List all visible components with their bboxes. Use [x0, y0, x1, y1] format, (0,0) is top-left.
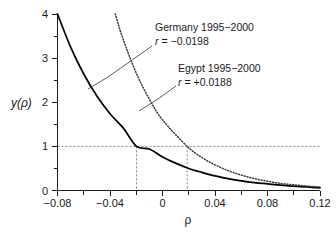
annotation-germany: Germany 1995−2000 r= −0.0198 — [155, 21, 254, 47]
x-tick-label: 0 — [159, 197, 165, 209]
y-axis-title: y(ρ) — [10, 96, 32, 110]
x-axis-minor-ticks — [84, 191, 294, 195]
x-tick-label: 0.08 — [257, 197, 278, 209]
y-axis-title-text: y(ρ) — [10, 96, 32, 110]
y-tick-label: 3 — [42, 52, 48, 64]
germany-r-symbol: r — [155, 35, 159, 47]
x-tick-label: 0.12 — [309, 197, 330, 209]
egypt-label-line1: Egypt 1995−2000 — [178, 62, 261, 74]
svg-text:r= −0.0198: r= −0.0198 — [155, 35, 209, 47]
y-tick-label: 2 — [42, 96, 48, 108]
germany-label-line1: Germany 1995−2000 — [155, 21, 254, 33]
x-axis-tick-labels: −0.08 −0.04 0 0.04 0.08 0.12 — [44, 197, 331, 209]
x-tick-label: −0.08 — [44, 197, 72, 209]
egypt-r-symbol: r — [178, 76, 182, 88]
x-tick-label: −0.04 — [96, 197, 124, 209]
svg-text:r= +0.0188: r= +0.0188 — [178, 76, 232, 88]
egypt-r-value: = +0.0188 — [185, 76, 232, 88]
svg-text:y(ρ): y(ρ) — [10, 96, 32, 110]
y-tick-label: 1 — [42, 140, 48, 152]
x-tick-label: 0.04 — [204, 197, 225, 209]
germany-leader-line — [88, 46, 152, 89]
y-tick-label: 0 — [42, 185, 48, 197]
y-axis-tick-labels: 0 1 2 3 4 — [42, 8, 48, 197]
y-axis-major-ticks — [52, 14, 58, 191]
chart-canvas: 0 1 2 3 4 y(ρ) −0.08 — [0, 0, 336, 232]
x-axis-title: ρ — [185, 213, 192, 227]
y-tick-label: 4 — [42, 8, 48, 20]
chart-figure: 0 1 2 3 4 y(ρ) −0.08 — [0, 0, 336, 232]
annotation-egypt: Egypt 1995−2000 r= +0.0188 — [178, 62, 261, 88]
germany-r-value: = −0.0198 — [162, 35, 209, 47]
series-line-egypt — [115, 14, 320, 187]
